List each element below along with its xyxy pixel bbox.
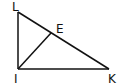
segment-IE bbox=[18, 33, 51, 69]
label-L: L bbox=[12, 0, 19, 14]
label-K: K bbox=[108, 72, 117, 83]
label-I: I bbox=[14, 72, 18, 83]
label-E: E bbox=[56, 22, 64, 36]
segment-LK bbox=[18, 12, 109, 69]
triangle-diagram: L E I K bbox=[0, 0, 122, 83]
